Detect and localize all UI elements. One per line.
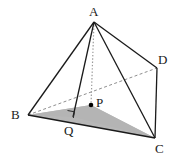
geometry-figure: A D P B Q C xyxy=(0,0,174,160)
vertex-label-C: C xyxy=(155,142,164,155)
vertex-label-D: D xyxy=(158,53,167,66)
vertex-label-P: P xyxy=(96,96,103,109)
point-P-dot xyxy=(89,103,94,108)
geometry-canvas xyxy=(0,0,174,160)
edge-AD xyxy=(94,22,157,68)
vertex-label-A: A xyxy=(89,5,98,18)
vertex-label-B: B xyxy=(11,108,20,121)
vertex-label-Q: Q xyxy=(64,124,73,137)
edge-DC xyxy=(155,68,157,138)
triangle-BPC-shaded-upper xyxy=(28,105,155,138)
